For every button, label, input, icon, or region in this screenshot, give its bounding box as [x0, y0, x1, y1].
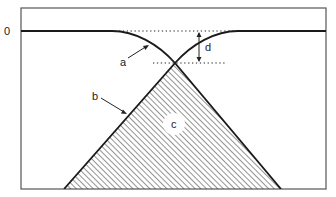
y-axis-zero-label: 0: [4, 25, 10, 37]
label-b: b: [92, 90, 98, 102]
label-c: c: [171, 118, 177, 130]
pointer-arrow-a: [128, 45, 149, 58]
overlap-diagram: 0 a b c d: [0, 0, 336, 197]
label-d: d: [205, 41, 211, 53]
dimension-arrow-d: [197, 32, 202, 62]
label-a: a: [120, 56, 127, 68]
pointer-arrow-b: [101, 98, 127, 114]
